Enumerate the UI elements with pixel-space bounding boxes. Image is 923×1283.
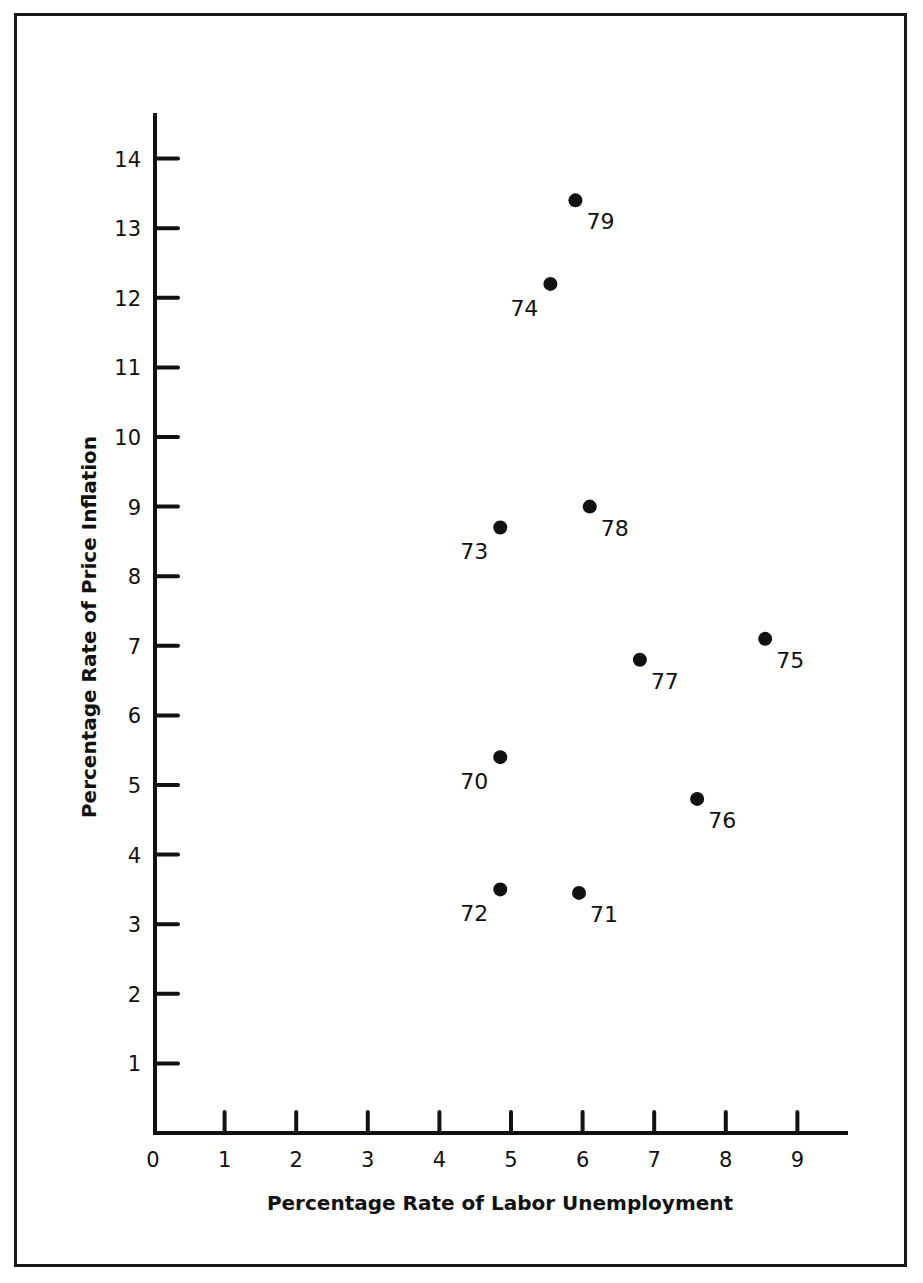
y-tick-label: 3 (128, 913, 141, 937)
x-tick-label: 5 (504, 1148, 517, 1172)
point-label: 73 (460, 539, 488, 564)
y-tick-label: 8 (128, 565, 141, 589)
data-point-71: 71 (572, 886, 618, 927)
y-tick-label: 1 (128, 1052, 141, 1076)
data-point-70: 70 (460, 750, 507, 794)
y-tick-label: 14 (114, 148, 141, 172)
x-tick-label: 3 (361, 1148, 374, 1172)
axes (153, 113, 848, 1135)
x-tick-label: 0 (146, 1148, 159, 1172)
x-tick-label: 7 (648, 1148, 661, 1172)
point-marker (583, 500, 597, 514)
y-tick-label: 5 (128, 774, 141, 798)
data-point-74: 74 (510, 277, 557, 321)
point-label: 70 (460, 769, 488, 794)
y-tick-label: 13 (114, 217, 141, 241)
data-points: 70717273747576777879 (460, 193, 804, 927)
point-label: 79 (586, 209, 614, 234)
point-label: 77 (651, 669, 679, 694)
point-label: 71 (590, 902, 618, 927)
y-axis-title: Percentage Rate of Price Inflation (77, 436, 101, 818)
point-marker (493, 882, 507, 896)
x-tick-label: 1 (218, 1148, 231, 1172)
x-axis-title: Percentage Rate of Labor Unemployment (267, 1191, 734, 1215)
point-label: 76 (708, 808, 736, 833)
point-label: 78 (601, 516, 629, 541)
y-tick-label: 7 (128, 635, 141, 659)
x-tick-label: 6 (576, 1148, 589, 1172)
y-tick-label: 6 (128, 704, 141, 728)
y-tick-label: 12 (114, 287, 141, 311)
x-tick-label: 2 (290, 1148, 303, 1172)
x-tick-label: 4 (433, 1148, 446, 1172)
point-marker (493, 750, 507, 764)
y-axis-ticks: 1234567891011121314 (114, 148, 178, 1077)
point-marker (568, 193, 582, 207)
data-point-75: 75 (758, 632, 804, 673)
y-tick-label: 10 (114, 426, 141, 450)
data-point-79: 79 (568, 193, 614, 234)
y-tick-label: 4 (128, 844, 141, 868)
point-marker (758, 632, 772, 646)
y-tick-label: 9 (128, 496, 141, 520)
point-marker (633, 653, 647, 667)
data-point-77: 77 (633, 653, 679, 694)
y-tick-label: 2 (128, 983, 141, 1007)
data-point-76: 76 (690, 792, 736, 833)
x-tick-label: 9 (791, 1148, 804, 1172)
point-marker (493, 520, 507, 534)
point-marker (543, 277, 557, 291)
x-tick-label: 8 (719, 1148, 732, 1172)
data-point-72: 72 (460, 882, 507, 926)
data-point-73: 73 (460, 520, 507, 564)
scatter-chart: 1234567891011121314 0123456789 707172737… (0, 0, 923, 1283)
point-label: 75 (776, 648, 804, 673)
point-marker (572, 886, 586, 900)
x-axis-ticks: 0123456789 (146, 1112, 804, 1172)
point-marker (690, 792, 704, 806)
point-label: 74 (510, 296, 538, 321)
y-tick-label: 11 (114, 356, 141, 380)
data-point-78: 78 (583, 500, 629, 541)
point-label: 72 (460, 901, 488, 926)
